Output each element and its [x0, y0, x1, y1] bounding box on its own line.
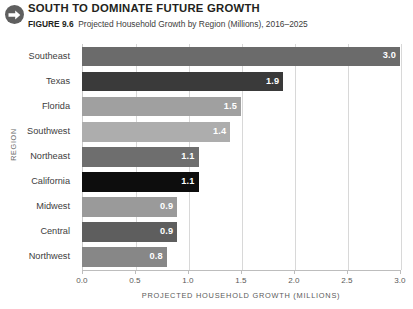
x-axis-tick-label: 1.5 [235, 276, 246, 285]
bar-row: 3.0 [82, 44, 400, 69]
bar: 1.9 [82, 72, 283, 92]
figure-page: SOUTH TO DOMINATE FUTURE GROWTH FIGURE 9… [0, 0, 413, 309]
x-axis-tick [347, 270, 348, 274]
bar-value-label: 1.1 [181, 152, 194, 161]
bar: 1.1 [82, 147, 199, 167]
x-axis-title: PROJECTED HOUSEHOLD GROWTH (MILLIONS) [82, 291, 400, 300]
y-axis-tick-labels: SoutheastTexasFloridaSouthwestNortheastC… [0, 44, 76, 270]
bar: 0.8 [82, 247, 167, 267]
bar-row: 0.9 [82, 195, 400, 220]
bar-row: 1.4 [82, 119, 400, 144]
x-axis-tick-label: 2.0 [288, 276, 299, 285]
bar-value-label: 1.1 [181, 177, 194, 186]
y-axis-tick-label: Southeast [29, 52, 70, 61]
y-axis-tick-label: Texas [46, 77, 70, 86]
y-axis-tick-label: Central [40, 228, 70, 237]
bar-value-label: 0.9 [160, 228, 173, 237]
page-title: SOUTH TO DOMINATE FUTURE GROWTH [28, 2, 260, 14]
x-axis-tick [82, 270, 83, 274]
bar-value-label: 0.9 [160, 202, 173, 211]
bar-row: 0.9 [82, 220, 400, 245]
x-axis-tick-label: 3.0 [394, 276, 405, 285]
bar-value-label: 1.9 [266, 77, 279, 86]
bar-value-label: 1.4 [213, 127, 226, 136]
bar-row: 0.8 [82, 245, 400, 270]
bar: 1.1 [82, 172, 199, 192]
bar-series: 3.01.91.51.41.11.10.90.90.8 [82, 44, 400, 270]
arrow-right-circle-icon [5, 5, 24, 24]
figure-caption: FIGURE 9.6 Projected Household Growth by… [28, 19, 308, 29]
figure-caption-text: Projected Household Growth by Region (Mi… [78, 19, 308, 29]
bar: 3.0 [82, 47, 400, 67]
bar-value-label: 0.8 [149, 253, 162, 262]
bar-row: 1.1 [82, 144, 400, 169]
bar: 0.9 [82, 222, 177, 242]
gridline [401, 44, 402, 270]
y-axis-tick-label: California [31, 178, 70, 187]
x-axis-tick [294, 270, 295, 274]
x-axis-tick [188, 270, 189, 274]
x-axis-tick-label: 1.0 [182, 276, 193, 285]
bar-value-label: 3.0 [383, 52, 396, 61]
y-axis-tick-label: Southwest [27, 127, 70, 136]
x-axis-tick [241, 270, 242, 274]
x-axis-tick [135, 270, 136, 274]
bar-value-label: 1.5 [224, 102, 237, 111]
bar-row: 1.1 [82, 170, 400, 195]
figure-header: SOUTH TO DOMINATE FUTURE GROWTH FIGURE 9… [0, 0, 413, 40]
figure-number: FIGURE 9.6 [28, 19, 74, 29]
y-axis-tick-label: Florida [42, 102, 70, 111]
y-axis-tick-label: Midwest [36, 203, 70, 212]
y-axis-tick-label: Northeast [30, 152, 70, 161]
x-axis-tick-label: 2.5 [341, 276, 352, 285]
x-axis-tick-label: 0.5 [129, 276, 140, 285]
bar-row: 1.5 [82, 94, 400, 119]
bar: 0.9 [82, 197, 177, 217]
y-axis-tick-label: Northwest [29, 253, 70, 262]
x-axis-tick [400, 270, 401, 274]
x-axis-tick-label: 0.0 [76, 276, 87, 285]
bar: 1.5 [82, 97, 241, 117]
bar-row: 1.9 [82, 69, 400, 94]
bar: 1.4 [82, 122, 230, 142]
